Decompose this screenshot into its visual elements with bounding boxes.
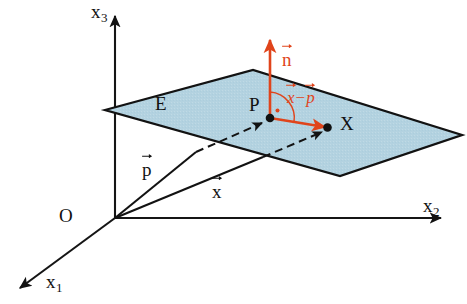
vector-label-n-base: n [282,49,292,71]
vector-label-p-base: p [142,159,152,181]
vector-expression-x-minus-p: x − p [287,83,315,108]
axis-label-x1-base: x [46,271,56,292]
axis-label-x3: x3 [91,2,108,24]
point-label-P: P [249,95,260,114]
axis-label-x1-subscript: 1 [56,280,63,295]
vector-accent-arrow-icon [281,43,292,49]
axis-label-x2: x2 [423,196,440,218]
vector-label-p: p [142,154,152,181]
plane-E-surface [105,70,462,176]
axis-label-x2-subscript: 2 [433,204,440,219]
axis-x1-line [20,218,115,288]
axis-label-x2-base: x [423,195,433,216]
vector-p-line [115,152,196,218]
vector-accent-arrow-icon [211,175,222,181]
vector-label-x: x [212,176,222,203]
vector-accent-arrow-icon [141,153,152,159]
vector-x-line [115,157,263,218]
axis-label-x3-base: x [91,1,101,22]
diagram-canvas [0,0,467,304]
vector-label-n: n [282,44,292,71]
expression-term-x: x [287,88,295,108]
point-P-dot [266,114,275,123]
point-label-X: X [340,114,354,133]
plane-diagram-figure: x3 x2 x1 O P X E p x [0,0,467,304]
position-vector-group [115,152,263,218]
expression-operator: − [296,88,306,107]
vector-label-x-base: x [212,181,222,203]
plane-label-E: E [155,94,167,113]
vector-accent-arrow-icon [305,82,316,88]
expression-term-p: p [306,88,315,108]
axis-label-x3-subscript: 3 [101,10,108,25]
point-label-O: O [59,206,73,225]
axis-label-x1: x1 [46,272,63,294]
point-X-dot [323,123,332,132]
vector-accent-arrow-icon [285,82,296,88]
